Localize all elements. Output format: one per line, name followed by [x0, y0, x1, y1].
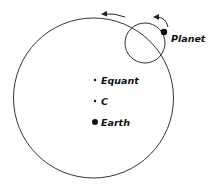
center-dot: [94, 100, 96, 102]
planet-label: Planet: [171, 33, 206, 44]
deferent-circle: [14, 18, 174, 178]
earth-label: Earth: [101, 117, 130, 128]
earth-dot: [92, 119, 98, 125]
deferent-motion-arrow: [104, 14, 125, 17]
epicycle-motion-arrow: [156, 17, 168, 27]
equant-label: Equant: [101, 75, 139, 86]
equant-dot: [94, 79, 96, 81]
epicycle-circle: [125, 23, 165, 63]
ptolemaic-diagram: Planet Equant C Earth: [0, 0, 212, 187]
planet-dot: [161, 29, 167, 35]
center-label: C: [101, 96, 108, 107]
